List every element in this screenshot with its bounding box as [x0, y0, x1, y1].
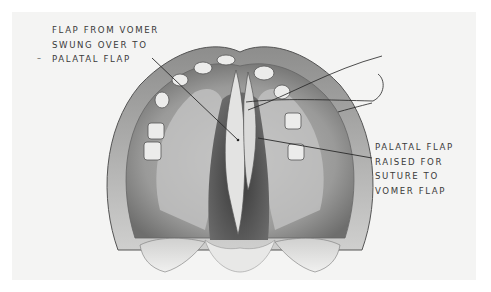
label-line: FLAP FROM VOMER	[52, 23, 159, 38]
label-line: VOMER FLAP	[375, 184, 454, 199]
label-line: PALATAL FLAP	[52, 52, 159, 67]
label-line: PALATAL FLAP	[375, 140, 454, 155]
label-line: RAISED FOR	[375, 155, 454, 170]
label-line: SUTURE TO	[375, 169, 454, 184]
label-palatal-flap: PALATAL FLAP RAISED FOR SUTURE TO VOMER …	[375, 140, 454, 198]
label-vomer-flap: FLAP FROM VOMER SWUNG OVER TO PALATAL FL…	[52, 23, 159, 67]
margin-mark: –	[37, 54, 41, 63]
label-line: SWUNG OVER TO	[52, 38, 159, 53]
